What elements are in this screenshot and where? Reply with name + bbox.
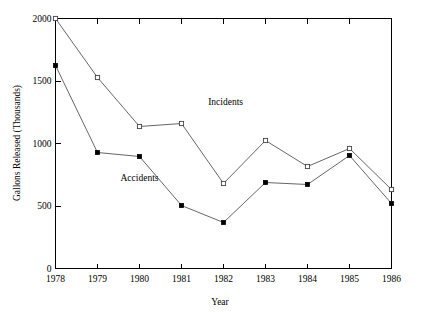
y-tick-label: 1000 [33,139,52,149]
x-tick-label: 1985 [340,274,359,284]
series-line-accidents [56,66,392,223]
x-tick-label: 1986 [382,274,401,284]
data-point-incidents-1984 [305,164,309,168]
data-point-incidents-1981 [179,121,183,125]
y-axis-ticks: 0500100015002000 [33,14,61,274]
x-tick-label: 1978 [46,274,65,284]
data-point-incidents-1978 [53,16,57,20]
x-tick-label: 1983 [256,274,275,284]
data-point-accidents-1986 [390,202,394,206]
data-point-accidents-1983 [264,181,268,185]
data-point-incidents-1980 [137,124,141,128]
data-point-accidents-1979 [96,151,100,155]
y-axis-title: Gallons Released (Thousands) [12,85,23,201]
axis-frame [56,19,392,269]
chart-container: 0500100015002000 19781979198019811982198… [0,0,424,319]
data-point-accidents-1978 [54,64,58,68]
data-point-accidents-1982 [222,221,226,225]
y-tick-label: 500 [37,201,52,211]
data-point-incidents-1982 [221,181,225,185]
data-point-accidents-1980 [138,155,142,159]
data-point-incidents-1986 [389,187,393,191]
x-axis-title: Year [211,297,229,307]
series-layer [53,16,393,224]
plot-area: 0500100015002000 19781979198019811982198… [33,14,402,284]
data-point-incidents-1985 [347,146,351,150]
y-tick-label: 1500 [33,76,52,86]
x-tick-label: 1982 [214,274,233,284]
line-chart: 0500100015002000 19781979198019811982198… [0,0,424,319]
series-label-accidents: Accidents [121,173,159,183]
x-tick-label: 1980 [130,274,149,284]
series-annotations: IncidentsAccidents [121,97,244,183]
data-point-incidents-1979 [95,75,99,79]
data-point-accidents-1985 [348,154,352,158]
series-accidents [54,64,394,225]
data-point-incidents-1983 [263,138,267,142]
x-tick-label: 1981 [172,274,191,284]
series-label-incidents: Incidents [208,97,243,107]
data-point-accidents-1981 [180,204,184,208]
y-tick-label: 2000 [33,14,52,24]
x-tick-label: 1979 [88,274,107,284]
data-point-accidents-1984 [306,183,310,187]
x-tick-label: 1984 [298,274,317,284]
y-tick-label: 0 [47,264,52,274]
